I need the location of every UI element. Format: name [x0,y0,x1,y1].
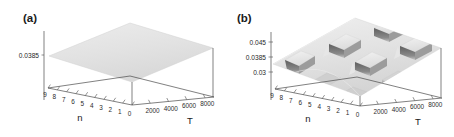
n-tick-label-a-0: 9 [43,91,47,98]
panel-a-plot: (a) 0.0385 [0,0,227,137]
floor-back-left-a [48,76,130,88]
n-tick-label-a-7: 2 [109,106,113,113]
n-tick-label-b-5: 4 [317,103,321,110]
T-axis-labels-a: 2000 4000 6000 8000 [145,100,214,114]
n-axis-labels-b: 9 8 7 6 5 4 3 2 1 0 [270,92,360,118]
z-tick-label-a-0: 0.0385 [19,52,40,59]
floor-back-right-a [130,76,214,97]
n-tick-label-b-3: 6 [299,99,303,106]
T-tick-label-a-0: 2000 [145,107,160,114]
T-tick-label-b-3: 8000 [428,101,443,108]
z-tick-label-b-2: 0.03 [253,69,266,76]
n-axis-title-a: n [77,112,82,123]
n-tick-label-a-4: 5 [81,100,85,107]
n-tick-label-b-8: 1 [346,109,350,116]
z-tick-label-b-0: 0.045 [249,39,266,46]
n-tick-label-a-2: 7 [62,96,66,103]
panel-b-plot: (b) 0.045 0.0385 0.03 [227,0,454,137]
T-tick-label-a-3: 8000 [200,100,215,107]
n-tick-label-a-9: 0 [128,110,132,117]
n-tick-label-b-4: 5 [308,101,312,108]
panel-label-a: (a) [23,12,37,24]
n-tick-label-b-2: 7 [289,97,293,104]
panel-a: (a) 0.0385 [0,0,227,137]
n-tick-label-a-5: 4 [90,102,94,109]
n-tick-label-b-9: 0 [356,111,360,118]
T-axis-title-b: T [415,116,421,127]
n-tick-label-b-7: 2 [336,107,340,114]
panel-b: (b) 0.045 0.0385 0.03 [227,0,454,137]
surface-plane-a [49,23,213,82]
figure-container: (a) 0.0385 [0,0,454,137]
z-tick-label-b-1: 0.0385 [246,54,267,61]
n-axis-title-b: n [305,113,310,124]
panel-label-b: (b) [237,12,252,24]
T-tick-label-b-1: 4000 [392,106,407,113]
n-tick-label-b-6: 3 [327,105,331,112]
T-tick-label-b-2: 6000 [410,103,425,110]
T-tick-label-a-2: 6000 [182,102,197,109]
n-tick-label-a-6: 3 [99,104,103,111]
T-axis-labels-b: 2000 4000 6000 8000 [373,101,442,115]
T-tick-label-b-0: 2000 [373,108,388,115]
n-tick-label-a-1: 8 [53,93,57,100]
n-tick-label-b-1: 8 [280,94,284,101]
n-axis-labels-a: 9 8 7 6 5 4 3 2 1 0 [43,91,132,117]
n-tick-label-a-3: 6 [71,98,75,105]
n-tick-label-a-8: 1 [118,108,122,115]
surface-corrugated-b [273,18,448,110]
T-axis-title-a: T [187,115,193,126]
n-tick-label-b-0: 9 [270,92,274,99]
T-tick-label-a-1: 4000 [164,105,179,112]
